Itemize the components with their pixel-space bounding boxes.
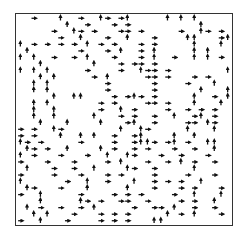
arrow-field xyxy=(18,16,228,223)
quiver-plot xyxy=(0,0,248,242)
